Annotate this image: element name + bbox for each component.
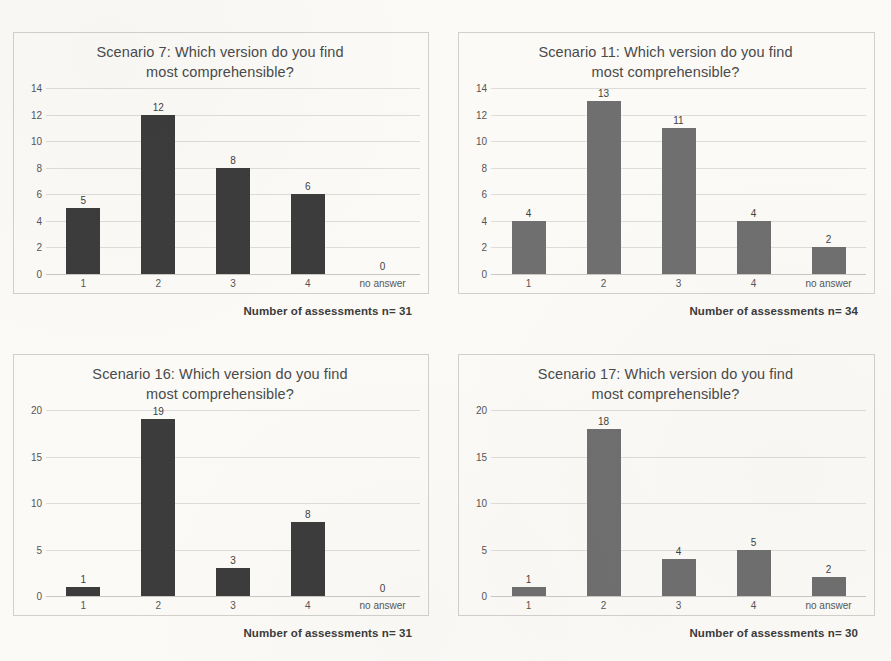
bar-slot: 2 [791, 88, 866, 274]
x-axis-category-label: 2 [121, 600, 196, 611]
x-axis-scenario-11: 1234no answer [465, 274, 866, 289]
bar [512, 587, 546, 596]
bar [812, 247, 846, 274]
bar-slot: 12 [121, 88, 196, 274]
bar [662, 128, 696, 274]
x-axis-category-label: 1 [46, 278, 121, 289]
x-axis-labels-scenario-16: 1234no answer [46, 600, 420, 611]
bar-group: 512860 [46, 88, 420, 274]
chart-title-line-2: most comprehensible? [592, 64, 740, 80]
y-axis-tick-label: 4 [481, 215, 487, 226]
bar-slot: 13 [566, 88, 641, 274]
y-axis-tick-label: 10 [476, 136, 487, 147]
bar-value-label: 19 [153, 406, 164, 417]
plot-wrap-scenario-17: 20151050 118452 1234no answer [465, 410, 866, 611]
bar-value-label: 18 [598, 416, 609, 427]
chart-cell-scenario-7: Scenario 7: Which version do you find mo… [0, 14, 445, 336]
bar [512, 221, 546, 274]
y-axis-tick-label: 14 [476, 83, 487, 94]
x-axis-category-label: no answer [345, 278, 420, 289]
x-axis-labels-scenario-7: 1234no answer [46, 278, 420, 289]
plot-row-scenario-17: 20151050 118452 [465, 410, 866, 596]
bar-value-label: 4 [751, 208, 757, 219]
bar-value-label: 6 [305, 181, 311, 192]
chart-title-line-1: Scenario 11: Which version do you find [538, 44, 792, 60]
bar-value-label: 2 [826, 564, 832, 575]
bar-slot: 5 [46, 88, 121, 274]
y-axis-tick-label: 6 [36, 189, 42, 200]
bar-value-label: 1 [526, 574, 532, 585]
bar-slot: 4 [716, 88, 791, 274]
x-axis-category-label: 4 [716, 278, 791, 289]
chart-panel-scenario-17: Scenario 17: Which version do you find m… [458, 354, 875, 616]
x-axis-category-label: 3 [641, 600, 716, 611]
bar [737, 550, 771, 596]
bar-slot: 8 [270, 410, 345, 596]
x-axis-category-label: 2 [121, 278, 196, 289]
bar-slot: 3 [196, 410, 271, 596]
chart-panel-scenario-7: Scenario 7: Which version do you find mo… [13, 32, 429, 294]
plot-wrap-scenario-16: 20151050 119380 1234no answer [20, 410, 420, 611]
bar-slot: 8 [196, 88, 271, 274]
bar-value-label: 8 [305, 509, 311, 520]
axis-baseline [491, 274, 866, 275]
y-axis-tick-label: 0 [481, 591, 487, 602]
y-axis-tick-label: 4 [36, 215, 42, 226]
chart-title-scenario-17: Scenario 17: Which version do you find m… [465, 362, 866, 410]
plot-row-scenario-11: 14121086420 4131142 [465, 88, 866, 274]
bar [662, 559, 696, 596]
chart-caption-scenario-7: Number of assessments n= 31 [13, 294, 429, 317]
plot-wrap-scenario-7: 14121086420 512860 1234no answer [20, 88, 420, 289]
bar [66, 587, 100, 596]
plot-row-scenario-7: 14121086420 512860 [20, 88, 420, 274]
y-axis-scenario-16: 20151050 [20, 410, 46, 596]
bar-value-label: 11 [673, 115, 683, 126]
charts-figure: Scenario 7: Which version do you find mo… [0, 0, 891, 661]
y-axis-tick-label: 5 [36, 544, 42, 555]
bar-group: 4131142 [491, 88, 866, 274]
axis-baseline [46, 274, 420, 275]
x-axis-category-label: 1 [491, 278, 566, 289]
bar [291, 194, 325, 274]
x-axis-labels-scenario-11: 1234no answer [491, 278, 866, 289]
bar-slot: 0 [345, 88, 420, 274]
x-axis-spacer [20, 278, 46, 289]
chart-cell-scenario-16: Scenario 16: Which version do you find m… [0, 336, 445, 658]
y-axis-tick-label: 20 [476, 405, 487, 416]
y-axis-tick-label: 0 [481, 269, 487, 280]
bar [587, 101, 621, 274]
bar [141, 419, 175, 596]
bar-value-label: 5 [751, 537, 757, 548]
y-axis-tick-label: 14 [31, 83, 42, 94]
bar-slot: 19 [121, 410, 196, 596]
chart-title-line-1: Scenario 17: Which version do you find [538, 366, 793, 382]
y-axis-tick-label: 0 [36, 269, 42, 280]
chart-title-scenario-7: Scenario 7: Which version do you find mo… [20, 40, 420, 88]
y-axis-tick-label: 0 [36, 591, 42, 602]
y-axis-scenario-11: 14121086420 [465, 88, 491, 274]
bar-value-label: 3 [230, 555, 236, 566]
bar-slot: 1 [491, 410, 566, 596]
chart-panel-scenario-16: Scenario 16: Which version do you find m… [13, 354, 429, 616]
x-axis-category-label: no answer [791, 600, 866, 611]
plot-area-scenario-7: 512860 [46, 88, 420, 274]
bar-slot: 18 [566, 410, 641, 596]
bar-value-label: 8 [230, 155, 236, 166]
x-axis-category-label: no answer [791, 278, 866, 289]
bar-value-label: 4 [526, 208, 532, 219]
bar-slot: 4 [491, 88, 566, 274]
x-axis-category-label: 1 [46, 600, 121, 611]
x-axis-category-label: 4 [270, 600, 345, 611]
bar-value-label: 4 [676, 546, 682, 557]
x-axis-spacer [465, 600, 491, 611]
bar-slot: 11 [641, 88, 716, 274]
chart-caption-scenario-11: Number of assessments n= 34 [458, 294, 875, 317]
chart-title-line-2: most comprehensible? [146, 386, 294, 402]
x-axis-scenario-16: 1234no answer [20, 596, 420, 611]
bar [216, 168, 250, 274]
x-axis-spacer [465, 278, 491, 289]
bar [216, 568, 250, 596]
y-axis-tick-label: 10 [31, 498, 42, 509]
x-axis-labels-scenario-17: 1234no answer [491, 600, 866, 611]
x-axis-category-label: 4 [716, 600, 791, 611]
